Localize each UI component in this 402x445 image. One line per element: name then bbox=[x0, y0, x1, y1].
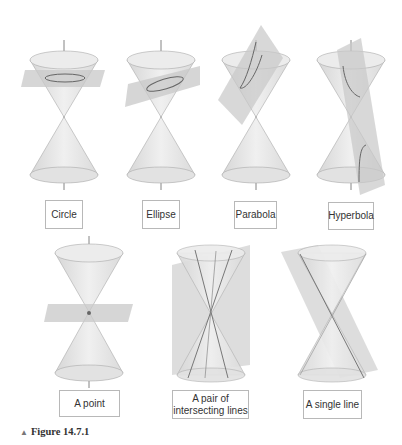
single-line-label: A single line bbox=[303, 390, 362, 419]
parabola-label: Parabola bbox=[234, 201, 277, 229]
intersecting-lines-label-line1: A pair of bbox=[192, 393, 229, 405]
intersecting-lines-label: A pair of intersecting lines bbox=[172, 390, 249, 419]
figure-caption: ▲Figure 14.7.1 bbox=[20, 426, 89, 437]
ellipse-panel bbox=[125, 40, 200, 190]
point-label-text: A point bbox=[74, 398, 105, 410]
figure-caption-text: Figure 14.7.1 bbox=[31, 426, 89, 437]
circle-label-text: Circle bbox=[51, 209, 77, 221]
point-panel bbox=[44, 236, 133, 388]
hyperbola-panel bbox=[317, 38, 385, 195]
triangle-marker-icon: ▲ bbox=[20, 428, 28, 437]
circle-label: Circle bbox=[45, 200, 83, 229]
ellipse-label-text: Ellipse bbox=[146, 209, 175, 221]
ellipse-label: Ellipse bbox=[142, 200, 180, 229]
parabola-label-text: Parabola bbox=[235, 209, 275, 221]
single-line-panel bbox=[281, 245, 378, 382]
parabola-panel bbox=[218, 25, 290, 190]
hyperbola-label: Hyperbola bbox=[328, 202, 374, 230]
intersecting-lines-label-line2: intersecting lines bbox=[173, 405, 247, 417]
intersecting-lines-panel bbox=[172, 245, 250, 382]
point-label: A point bbox=[59, 390, 120, 417]
single-line-label-text: A single line bbox=[306, 399, 359, 411]
hyperbola-label-text: Hyperbola bbox=[328, 210, 374, 222]
circle-panel bbox=[21, 40, 105, 190]
